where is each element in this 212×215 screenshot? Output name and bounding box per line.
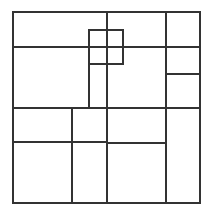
subdivided-square-diagram	[0, 0, 212, 215]
dividing-lines	[13, 12, 200, 203]
